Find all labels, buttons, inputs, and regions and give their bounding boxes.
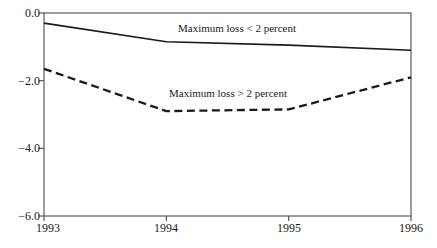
x-tick-label: 1993 <box>26 221 70 234</box>
y-tick-label: −4.0 <box>0 141 40 155</box>
plot-area <box>0 0 437 248</box>
x-tick-label: 1995 <box>267 221 311 234</box>
y-tick-label: 0.0 <box>0 6 40 20</box>
series-label-solid: Maximum loss < 2 percent <box>178 22 296 34</box>
x-tick-label: 1996 <box>389 221 433 234</box>
y-tick-label: −2.0 <box>0 74 40 88</box>
x-tick-label: 1994 <box>144 221 188 234</box>
line-chart: 0.0 −2.0 −4.0 −6.0 1993 1994 1995 1996 M… <box>0 0 437 248</box>
series-label-dashed: Maximum loss > 2 percent <box>169 87 287 99</box>
